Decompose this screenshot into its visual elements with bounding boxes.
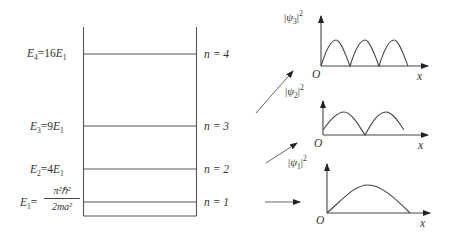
energy-label-e1: E1= [20,197,37,209]
psi2-plot [323,101,428,135]
n-label-4: n = 4 [204,49,229,61]
psi1-plot [327,164,430,213]
psi3-curve [321,40,408,66]
formula-numerator: π²ℏ² [44,186,80,198]
psi2-origin-label: O [314,138,322,150]
potential-well [84,27,197,216]
psi2-x-label: x [418,140,423,152]
n-label-3: n = 3 [204,121,229,133]
energy-levels [84,54,197,202]
psi3-x-label: x [417,71,422,83]
psi2-curve [323,112,404,135]
energy-label-e3: E3=9E1 [30,121,64,133]
psi2-ylabel: |ψ2|2 [285,86,304,97]
psi3-plot [321,16,428,66]
psi3-origin-label: O [312,69,320,81]
energy-label-e2: E2=4E1 [30,164,64,176]
psi1-origin-label: O [316,215,324,227]
psi3-ylabel: |ψ3|2 [284,12,303,23]
psi1-ylabel: |ψ1|2 [288,157,307,168]
psi1-curve [327,185,410,213]
n-label-2: n = 2 [204,164,229,176]
energy-label-e4: E4=16E1 [27,48,67,60]
ground-energy-formula: π²ℏ² 2ma² [44,186,80,212]
formula-denominator: 2ma² [44,199,80,212]
n-label-1: n = 1 [204,197,229,209]
psi1-x-label: x [420,218,425,230]
